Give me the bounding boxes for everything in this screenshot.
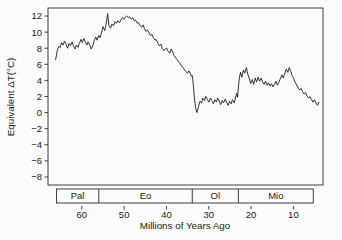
- x-tick-label: 50: [119, 209, 130, 220]
- epoch-label-eo: Eo: [140, 190, 152, 201]
- x-axis-ticks: [82, 206, 294, 210]
- y-tick-label: 2: [37, 91, 42, 102]
- x-tick-label: 20: [246, 209, 257, 220]
- x-axis-title: Millions of Years Ago: [140, 220, 231, 231]
- y-tick-label: −6: [31, 155, 42, 166]
- x-tick-label: 30: [203, 209, 214, 220]
- epoch-label-ol: Ol: [211, 190, 221, 201]
- epoch-band-bar: PalEoOlMio: [56, 189, 313, 203]
- x-tick-label: 40: [161, 209, 172, 220]
- y-tick-label: −8: [31, 171, 42, 182]
- y-tick-label: −2: [31, 123, 42, 134]
- data-series-group: [56, 14, 319, 113]
- y-tick-label: 4: [37, 75, 42, 86]
- y-tick-label: 6: [37, 59, 42, 70]
- temperature-history-chart: −8−6−4−2024681012 605040302010 PalEoOlMi…: [0, 0, 342, 240]
- y-axis-tick-labels: −8−6−4−2024681012: [31, 10, 42, 182]
- x-tick-label: 10: [288, 209, 299, 220]
- equivalent-delta-t-curve: [56, 14, 319, 113]
- x-axis-tick-labels: 605040302010: [77, 209, 299, 220]
- y-tick-label: 8: [37, 43, 42, 54]
- y-tick-label: −4: [31, 139, 42, 150]
- y-axis-title: Equivalent ΔT(°C): [5, 58, 16, 137]
- plot-frame: [48, 8, 323, 185]
- y-tick-label: 12: [31, 10, 42, 21]
- y-tick-label: 0: [37, 107, 42, 118]
- y-tick-label: 10: [31, 27, 42, 38]
- x-tick-label: 60: [77, 209, 88, 220]
- epoch-label-mio: Mio: [268, 190, 283, 201]
- epoch-label-pal: Pal: [71, 190, 85, 201]
- figure-container: −8−6−4−2024681012 605040302010 PalEoOlMi…: [0, 0, 342, 240]
- y-axis-ticks: [45, 16, 49, 177]
